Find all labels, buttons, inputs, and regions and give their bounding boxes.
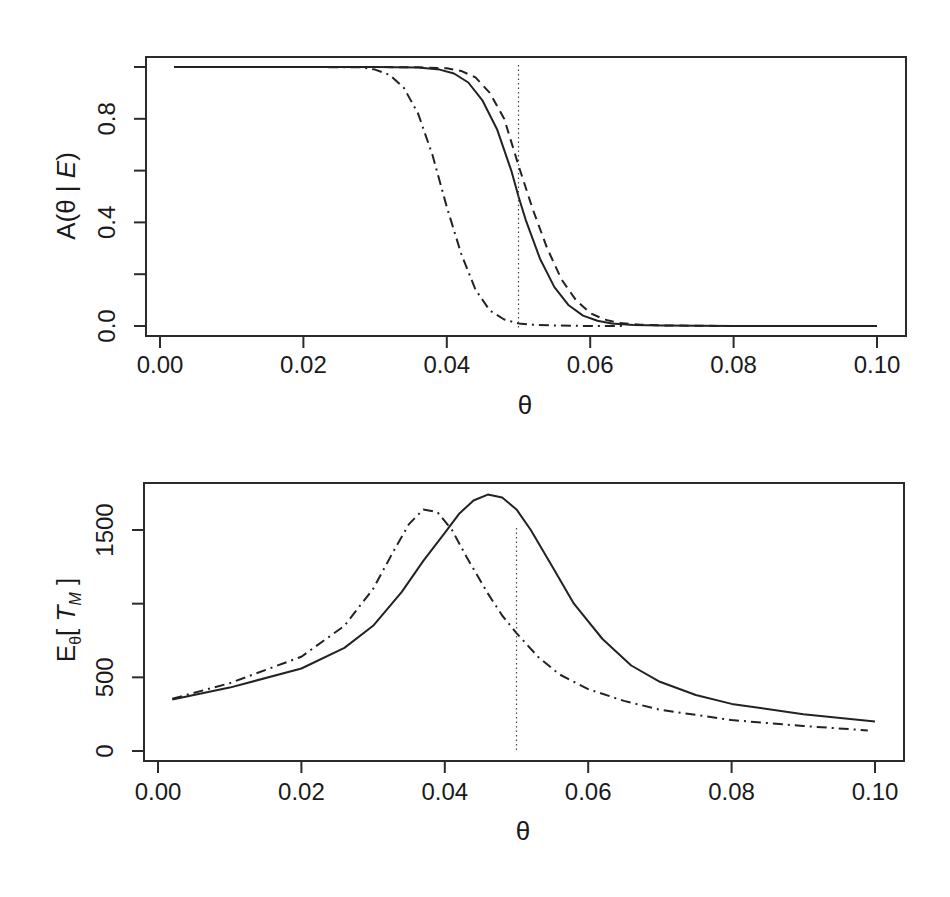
- figure: 0.000.020.040.060.080.10 0.00.40.8 θ A(θ…: [0, 0, 950, 897]
- curves: [174, 65, 877, 328]
- y-tick-label: 0.4: [93, 206, 120, 239]
- x-tick-label: 0.00: [137, 351, 184, 378]
- series-solid-line: [172, 495, 875, 722]
- x-tick-label: 0.04: [423, 351, 470, 378]
- x-tick-label: 0.00: [135, 778, 182, 805]
- series-dashed-line: [174, 67, 877, 326]
- y-axis-title: A(θ | E): [51, 152, 81, 240]
- x-tick-label: 0.02: [280, 351, 327, 378]
- y-tick-label: 1500: [91, 503, 118, 556]
- series-dot-dash-line: [174, 67, 626, 326]
- x-tick-label: 0.06: [565, 778, 612, 805]
- x-tick-label: 0.10: [852, 778, 899, 805]
- x-tick-label: 0.02: [278, 778, 325, 805]
- x-axis: 0.000.020.040.060.080.10: [135, 761, 899, 805]
- series-solid-line: [174, 67, 877, 326]
- y-tick-label: 0.0: [93, 309, 120, 342]
- y-axis: 05001500: [91, 503, 144, 757]
- acceptance-probability-plot: 0.000.020.040.060.080.10 0.00.40.8 θ A(θ…: [51, 57, 906, 420]
- x-tick-label: 0.04: [421, 778, 468, 805]
- y-tick-label: 0.8: [93, 102, 120, 135]
- y-tick-label: 500: [91, 657, 118, 697]
- expected-time-plot: 0.000.020.040.060.080.10 05001500 θ Eθ[ …: [51, 483, 904, 846]
- x-tick-label: 0.06: [567, 351, 614, 378]
- y-axis-title: Eθ[ TM ]: [51, 578, 84, 662]
- x-tick-label: 0.08: [708, 778, 755, 805]
- y-axis: 0.00.40.8: [93, 67, 146, 343]
- x-axis-title: θ: [518, 390, 532, 420]
- plot-frame: [146, 57, 906, 336]
- series-dot-dash-line: [172, 509, 868, 730]
- x-tick-label: 0.10: [854, 351, 901, 378]
- x-axis-title: θ: [516, 816, 530, 846]
- y-tick-label: 0: [91, 744, 118, 757]
- curves: [172, 495, 875, 753]
- x-tick-label: 0.08: [710, 351, 757, 378]
- x-axis: 0.000.020.040.060.080.10: [137, 336, 901, 378]
- plot-frame: [144, 483, 904, 761]
